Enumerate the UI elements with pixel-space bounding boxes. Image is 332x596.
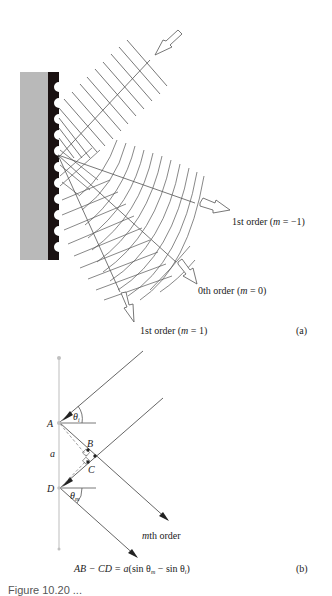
label-B: B [87, 438, 93, 449]
order-plus1-label: 1st order (m = 1) [140, 325, 207, 337]
panel-b: A B C D a θi θm mth order AB − CD = a(si… [46, 351, 308, 575]
point-A [57, 421, 61, 425]
panel-a: 1st order (m = −1) 0th order (m = 0) 1st… [20, 30, 307, 337]
label-A: A [46, 418, 54, 429]
path-difference-equation: AB − CD = a(sin θm − sin θi) [73, 563, 190, 575]
grating-grooves [48, 72, 59, 260]
label-C: C [88, 464, 95, 475]
figure-caption: Figure 10.20 ... [8, 584, 82, 596]
label-theta-i: θi [73, 411, 80, 423]
incident-arrow-icon [155, 30, 182, 55]
order-minus1-label: 1st order (m = −1) [232, 216, 305, 228]
construction-DC [62, 460, 87, 486]
order-plus1-arrow-icon [121, 292, 134, 322]
label-mth-order: mth order [142, 530, 181, 541]
grating-substrate [20, 72, 49, 260]
label-theta-m: θm [70, 490, 80, 502]
label-D: D [46, 483, 55, 494]
order-0-label: 0th order (m = 0) [198, 285, 266, 297]
label-spacing-a: a [50, 448, 55, 459]
point-intersect [93, 454, 96, 457]
order-minus1-arrow-icon [200, 198, 230, 213]
incident-ray [58, 60, 150, 158]
panel-b-label: (b) [296, 563, 308, 575]
panel-a-label: (a) [296, 325, 307, 337]
bottom-endpoint-dot [58, 548, 61, 551]
order-0-arrow-icon [178, 259, 197, 284]
top-endpoint-dot [57, 356, 61, 360]
diffracted-rays [58, 155, 195, 292]
point-D [57, 486, 60, 489]
construction-AB [60, 424, 87, 456]
